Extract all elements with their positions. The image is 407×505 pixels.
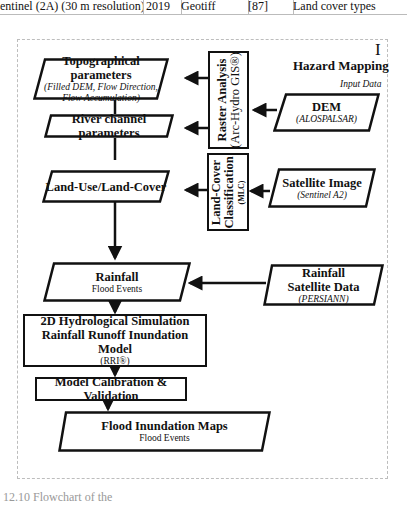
- node-raster-analysis: Raster Analysis (Arc-Hydro GIS®): [208, 51, 249, 149]
- lcc-sub: (MLC): [236, 156, 247, 228]
- node-hydrological-simulation: 2D Hydrological Simulation Rainfall Runo…: [23, 314, 207, 367]
- dem-sub: (ALOSPALSAR): [296, 114, 357, 125]
- topo-title: Topographical parameters: [33, 54, 169, 82]
- hydro-sub: (RRI®): [100, 356, 129, 367]
- river-title: River channel parameters: [44, 112, 174, 140]
- rain-title: Rainfall: [95, 270, 138, 284]
- node-river-channel-parameters: River channel parameters: [44, 114, 174, 138]
- lulc-title: Land-Use/Land-Cover: [46, 180, 167, 194]
- maps-sub: Flood Events: [139, 433, 189, 444]
- topo-sub2: Flow Accumulation): [62, 93, 140, 104]
- node-topographical-parameters: Topographical parameters (Filled DEM, Fl…: [33, 58, 169, 100]
- hydro-title1: 2D Hydrological Simulation: [40, 314, 189, 328]
- sat-sub: (Sentinel A2): [297, 190, 347, 201]
- lcc-title2: Classification: [223, 156, 236, 228]
- hydro-title2: Rainfall Runoff Inundation Model: [25, 328, 205, 356]
- calib-title: Model Calibration & Validation: [37, 375, 185, 403]
- rainsat-title1: Rainfall: [302, 266, 345, 280]
- dem-title: DEM: [312, 100, 341, 114]
- node-flood-inundation-maps: Flood Inundation Maps Flood Events: [58, 411, 271, 452]
- raster-title: Raster Analysis: [216, 52, 229, 148]
- topo-sub1: (Filled DEM, Flow Direction,: [44, 82, 158, 93]
- rainsat-sub: (PERSIANN): [298, 294, 348, 305]
- lcc-title1: Land-Cover: [210, 156, 223, 228]
- node-satellite-image: Satellite Image (Sentinel A2): [268, 168, 376, 208]
- node-rainfall-satellite-data: Rainfall Satellite Data (PERSIANN): [263, 264, 384, 306]
- node-dem: DEM (ALOSPALSAR): [273, 93, 380, 132]
- node-land-use-land-cover: Land-Use/Land-Cover: [42, 170, 170, 203]
- sat-title: Satellite Image: [282, 176, 362, 190]
- node-model-calibration-validation: Model Calibration & Validation: [35, 377, 187, 401]
- node-rainfall: Rainfall Flood Events: [43, 262, 191, 302]
- node-land-cover-classification: Land-Cover Classification (MLC): [207, 153, 249, 231]
- rainsat-title2: Satellite Data: [288, 280, 360, 294]
- maps-title: Flood Inundation Maps: [101, 419, 227, 433]
- raster-sub: (Arc-Hydro GIS®): [229, 52, 242, 148]
- rain-sub: Flood Events: [92, 284, 142, 295]
